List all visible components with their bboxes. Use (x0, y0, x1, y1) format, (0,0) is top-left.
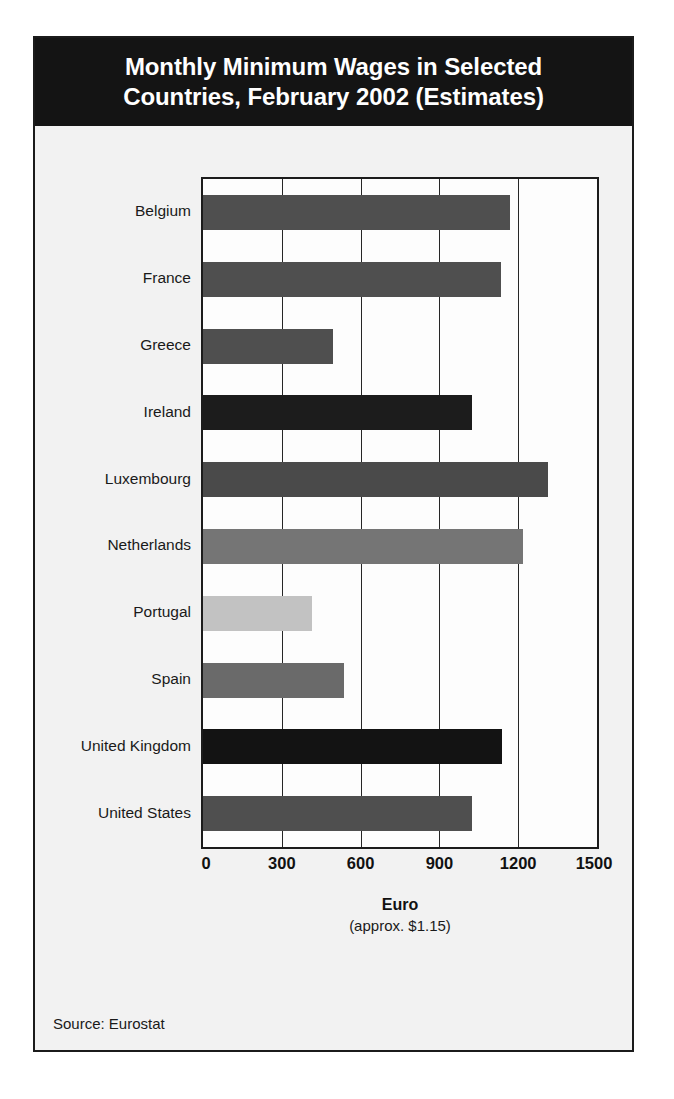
source-note: Source: Eurostat (53, 1015, 165, 1032)
category-label: Netherlands (107, 535, 191, 555)
value-tick-label: 0 (201, 854, 210, 873)
category-label: France (143, 268, 191, 288)
bar (203, 395, 472, 430)
value-axis-title-block: Euro (approx. $1.15) (201, 894, 599, 936)
category-label: Spain (151, 669, 191, 689)
bar (203, 195, 510, 230)
category-label: Belgium (135, 201, 191, 221)
chart-body: BelgiumFranceGreeceIrelandLuxembourgNeth… (35, 126, 632, 1050)
chart-title-line-2: Countries, February 2002 (Estimates) (123, 82, 544, 112)
value-tick-label: 900 (426, 854, 454, 873)
category-label: Luxembourg (105, 469, 191, 489)
value-axis-ticks: 030060090012001500 (201, 854, 599, 880)
bar (203, 462, 548, 497)
value-axis-subtitle: (approx. $1.15) (201, 915, 599, 936)
category-label: Greece (140, 335, 191, 355)
value-tick-label: 300 (268, 854, 296, 873)
bar (203, 329, 333, 364)
value-tick-label: 1200 (500, 854, 537, 873)
chart-title-band: Monthly Minimum Wages in Selected Countr… (35, 38, 632, 126)
figure-frame: Monthly Minimum Wages in Selected Countr… (33, 36, 634, 1052)
bar (203, 796, 472, 831)
value-tick-label: 1500 (576, 854, 613, 873)
bar (203, 529, 523, 564)
category-label: Ireland (144, 402, 191, 422)
chart-title-line-1: Monthly Minimum Wages in Selected (125, 52, 542, 82)
category-label: Portugal (133, 602, 191, 622)
category-axis-labels: BelgiumFranceGreeceIrelandLuxembourgNeth… (35, 177, 201, 849)
bar (203, 663, 344, 698)
bar (203, 596, 312, 631)
plot-area (201, 177, 599, 849)
value-axis-title: Euro (201, 894, 599, 915)
category-label: United Kingdom (81, 736, 191, 756)
bar (203, 729, 502, 764)
gridline (518, 179, 519, 847)
value-tick-label: 600 (347, 854, 375, 873)
bar (203, 262, 501, 297)
category-label: United States (98, 803, 191, 823)
